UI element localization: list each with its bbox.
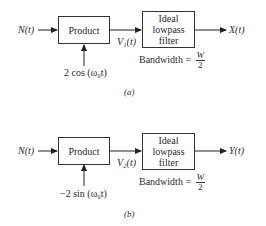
bandwidth-label: Bandwidth = <box>139 176 191 187</box>
carrier-label: 2 cos (ω₀t) <box>64 67 107 78</box>
bandwidth-fraction: W 2 <box>196 51 206 70</box>
bandwidth-annotation: Bandwidth = W 2 <box>139 51 205 70</box>
product-block: Product <box>58 16 110 44</box>
intermediate-signal-label: V₂(t) <box>117 157 136 168</box>
bandwidth-fraction: W 2 <box>196 173 206 192</box>
caption-b: (b) <box>124 209 135 219</box>
product-block-label: Product <box>68 146 99 157</box>
caption-a: (a) <box>124 87 135 97</box>
carrier-label: −2 sin (ω₀t) <box>60 188 107 199</box>
filter-line-2: lowpass <box>152 24 184 35</box>
filter-line-1: Ideal <box>159 13 179 24</box>
product-block-label: Product <box>68 25 99 36</box>
product-block: Product <box>58 137 110 165</box>
bandwidth-label: Bandwidth = <box>139 54 191 65</box>
lowpass-filter-block: Ideal lowpass filter <box>142 133 195 170</box>
lowpass-filter-block: Ideal lowpass filter <box>142 11 195 48</box>
input-signal-label: N(t) <box>18 24 34 35</box>
filter-line-2: lowpass <box>152 146 184 157</box>
input-signal-label: N(t) <box>18 145 34 156</box>
filter-line-1: Ideal <box>159 135 179 146</box>
bandwidth-denominator: 2 <box>198 183 203 192</box>
bandwidth-denominator: 2 <box>198 61 203 70</box>
intermediate-signal-label: V₁(t) <box>117 36 136 47</box>
output-signal-label: Y(t) <box>229 145 244 156</box>
bandwidth-annotation: Bandwidth = W 2 <box>139 173 205 192</box>
filter-line-3: filter <box>159 157 178 168</box>
output-signal-label: X(t) <box>229 24 245 35</box>
connection-arrows <box>0 0 266 226</box>
filter-line-3: filter <box>159 35 178 46</box>
